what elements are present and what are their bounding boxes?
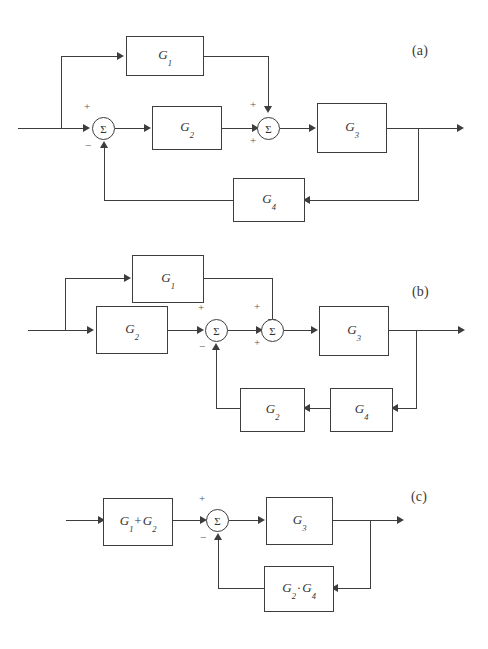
sum1-input-line-b [168,330,200,331]
g1-to-sum2-arrow-a [264,106,272,113]
block-g2-a: G2 [152,106,222,150]
g1-output-line-a [204,56,269,57]
block-g2-b-label: G2 [125,321,139,339]
block-g3-b-label: G3 [347,322,361,340]
summer-1-c-symbol: Σ [214,515,220,527]
block-g3-c: G3 [266,497,333,545]
block-g1-b: G1 [132,255,204,303]
block-g4-a: G4 [233,178,305,222]
output-line-a [387,128,460,129]
block-g2-dot-g4-c: G2·G4 [264,566,334,612]
summer-1-b-sign-minus: − [199,341,205,352]
block-g3-c-label: G3 [293,512,307,530]
summer-2-b-sign-top-plus: + [254,301,260,312]
block-g1-plus-g2-c: G1+G2 [103,498,173,546]
takeoff-branch-b [65,278,66,331]
block-g1-a-label: G1 [158,47,172,65]
summer-1-b: Σ [205,319,228,342]
feedback-arrow-c [214,533,222,540]
panel-b: (b) G1 G2 Σ + − [0,240,488,470]
g3-input-line-c [229,520,261,521]
block-g2-dot-g4-c-label: G2·G4 [282,580,316,598]
block-g2-a-label: G2 [180,119,194,137]
block-g2-b: G2 [96,306,168,354]
sum1-input-arrow-b [197,326,204,334]
takeoff-branch-a [61,56,62,129]
feedback-riser-a [104,147,105,201]
g3-input-arrow-b [311,326,318,334]
g3-input-line-a [280,128,312,129]
feedback-line-left-a [104,200,233,201]
input-line-b [28,330,66,331]
summer-2-a-sign-top-plus: + [250,99,256,110]
summer-1-a-sign-plus: + [84,101,90,112]
summer-1-c-sign-minus: − [200,532,206,543]
sum1-input-arrow-a [83,124,90,132]
figure-canvas: (a) G1 Σ + − G2 [0,0,488,649]
block-g3-a-label: G3 [345,119,359,137]
summer-1-c: Σ [206,509,229,532]
summer-2-a: Σ [257,117,280,140]
panel-c-label: (c) [411,489,427,505]
g2-input-line-b [65,330,89,331]
g1-input-line-a [61,56,118,57]
feedback-line-right-a [305,200,419,201]
feedback-line-left-b [216,408,240,409]
g3-input-arrow-a [309,124,316,132]
g2-input-line-a [115,128,147,129]
block-g1-plus-g2-c-label: G1+G2 [120,513,157,531]
g2-input-arrow-a [144,124,151,132]
summer-2-b-sign-bottom-plus: + [254,337,260,348]
feedback-line-left-c [218,588,264,589]
g1-output-line-b [204,278,273,279]
panel-a-label: (a) [412,43,428,59]
feedback-takeoff-a [418,128,419,201]
feedback-riser-c [218,540,219,589]
feedback-riser-b [216,350,217,409]
g1-to-sum2-line-b [272,278,273,321]
g1-to-sum2-line-a [268,56,269,108]
block-g1-b-label: G1 [161,270,175,288]
summer-2-b: Σ [261,319,284,342]
block-g3-b: G3 [319,306,389,356]
panel-b-label: (b) [412,284,429,300]
block-g4-a-label: G4 [262,191,276,209]
summer-2-a-symbol: Σ [265,123,271,135]
panel-a: (a) G1 Σ + − G2 [0,0,488,240]
feedback-takeoff-c [370,520,371,589]
summer-2-a-sign-bottom-plus: + [250,135,256,146]
sum2-input-line-a [222,128,255,129]
g2g4-input-line-c [334,588,371,589]
block-g4-b: G4 [330,388,393,432]
output-line-c [333,520,401,521]
g1-input-line-b [65,278,126,279]
g3-input-arrow-c [258,516,265,524]
g1-input-arrow-b [124,274,131,282]
summer-1-a: Σ [92,117,115,140]
sum1-input-line-a [61,128,85,129]
summer-1-b-sign-plus: + [198,302,204,313]
g2-input-arrow-b [87,326,94,334]
panel-c: (c) G1+G2 Σ + − G3 G2·G4 [0,470,488,649]
sum1-input-line-c [173,520,203,521]
block-g3-a: G3 [317,103,387,153]
block-g2-feedback-b-label: G2 [266,401,280,419]
summer-2-b-symbol: Σ [269,325,275,337]
output-line-b [389,330,461,331]
block-g1-a: G1 [126,36,204,76]
summer-1-c-sign-plus: + [199,493,205,504]
g3-input-line-b [284,330,314,331]
input-line-a [18,128,62,129]
feedback-arrow-b [212,343,220,350]
output-arrow-a [457,124,464,132]
summer-1-b-symbol: Σ [213,325,219,337]
feedback-arrow-a [100,141,108,148]
output-arrow-b [458,326,465,334]
block-g4-b-label: G4 [355,401,369,419]
input-line-c [66,520,101,521]
block-g2-feedback-b: G2 [240,388,305,432]
summer-1-a-sign-minus: − [85,140,91,151]
output-arrow-c [397,516,404,524]
feedback-takeoff-b [416,330,417,409]
g1-input-arrow-a [117,52,124,60]
